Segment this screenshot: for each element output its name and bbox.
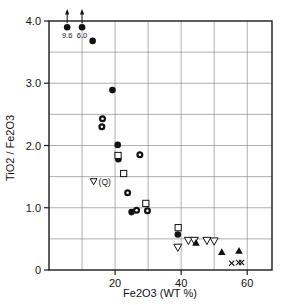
data-point-filled-circle: [64, 24, 71, 31]
x-axis-title: Fe2O3 (WT %): [123, 287, 197, 299]
y-axis-tick-label: 2.0: [26, 140, 41, 152]
data-point-filled-circle: [79, 24, 86, 31]
data-point-open-square: [115, 152, 121, 158]
y-axis-tick-label: 1.0: [26, 202, 41, 214]
data-point-dotted-circle: [98, 123, 105, 130]
y-axis-tick-label: 0: [35, 264, 41, 276]
data-point-filled-triangle-up: [218, 248, 226, 255]
data-point-cross: [229, 261, 234, 266]
data-markers-layer: [64, 24, 244, 266]
data-point-dotted-circle: [136, 151, 143, 158]
off-scale-value-label: 9.6: [62, 31, 72, 40]
plot-canvas: 01.02.03.04.0204060 9.66.0(Q) TiO2 / Fe2…: [0, 0, 285, 305]
series-cross: [229, 260, 244, 266]
legend-label-q: (Q): [99, 177, 111, 187]
data-point-filled-circle: [175, 231, 182, 238]
off-scale-arrow-head: [65, 9, 69, 15]
off-scale-value-label: 6.0: [77, 31, 87, 40]
series-filled-circle: [64, 24, 181, 238]
data-point-dotted-circle: [144, 207, 151, 214]
data-point-filled-circle: [114, 142, 121, 149]
data-point-cross: [239, 260, 244, 265]
y-axis-title: TiO2 / Fe2O3: [4, 115, 16, 181]
series-dotted-circle: [98, 115, 151, 214]
legend-open-triangle-down-icon: [90, 179, 97, 185]
x-axis-tick-label: 20: [109, 277, 121, 289]
dotted-circle-center-dot: [101, 126, 104, 129]
grid-layer: [49, 21, 272, 270]
data-point-open-triangle-down: [210, 238, 218, 245]
y-axis-tick-label: 3.0: [26, 77, 41, 89]
x-axis-tick-label: 60: [241, 277, 253, 289]
dotted-circle-center-dot: [135, 209, 138, 212]
data-point-open-square: [175, 225, 181, 231]
data-point-open-square: [143, 200, 149, 206]
off-scale-arrow-head: [80, 9, 84, 15]
data-point-dotted-circle: [99, 115, 106, 122]
dotted-circle-center-dot: [126, 192, 128, 195]
data-point-open-triangle-down: [174, 244, 182, 251]
scatter-plot-figure: 01.02.03.04.0204060 9.66.0(Q) TiO2 / Fe2…: [0, 0, 285, 305]
dotted-circle-center-dot: [101, 117, 104, 120]
series-filled-triangle-up: [192, 239, 243, 255]
data-point-dotted-circle: [133, 207, 140, 214]
data-point-filled-circle: [89, 38, 96, 45]
data-point-filled-triangle-up: [235, 247, 243, 254]
data-point-open-triangle-down: [203, 237, 211, 244]
dotted-circle-center-dot: [139, 154, 142, 157]
data-point-open-square: [121, 170, 127, 176]
data-point-dotted-circle: [124, 189, 131, 196]
data-point-filled-circle: [109, 87, 116, 94]
annotation-layer: 9.66.0(Q): [62, 9, 111, 187]
y-axis-tick-label: 4.0: [26, 15, 41, 27]
dotted-circle-center-dot: [146, 210, 149, 213]
